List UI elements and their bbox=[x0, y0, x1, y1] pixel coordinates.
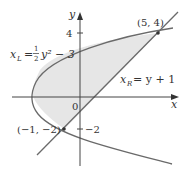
svg-text:R: R bbox=[126, 80, 133, 88]
point-neg1-neg2 bbox=[62, 127, 66, 131]
svg-text:x: x bbox=[10, 48, 17, 61]
parabola-equation-label: x L = 1 2 y² − 3 bbox=[10, 45, 75, 63]
svg-text:x: x bbox=[120, 73, 127, 86]
y-axis-label: y bbox=[68, 8, 76, 21]
svg-text:2: 2 bbox=[34, 55, 38, 63]
y-tick-label-neg2: −2 bbox=[85, 124, 100, 135]
y-tick-label-4: 4 bbox=[66, 28, 72, 39]
svg-text:=: = bbox=[24, 48, 33, 61]
svg-text:= y + 1: = y + 1 bbox=[133, 73, 175, 86]
svg-text:1: 1 bbox=[34, 45, 38, 53]
y-axis-arrow-icon bbox=[77, 12, 83, 20]
point-label-5-4: (5, 4) bbox=[137, 17, 164, 28]
point-5-4 bbox=[156, 31, 160, 35]
region-diagram: y x 0 4 −2 (5, 4) (−1, −2) x L = 1 2 y² … bbox=[0, 0, 191, 178]
point-label-neg1-neg2: (−1, −2) bbox=[17, 124, 61, 135]
svg-text:L: L bbox=[16, 55, 22, 63]
origin-label: 0 bbox=[72, 101, 78, 112]
line-equation-label: x R = y + 1 bbox=[120, 73, 175, 88]
svg-text:y² − 3: y² − 3 bbox=[40, 48, 75, 61]
x-axis-label: x bbox=[171, 98, 178, 111]
